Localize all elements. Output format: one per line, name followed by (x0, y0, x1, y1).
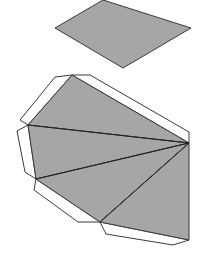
rhombus-base (55, 0, 191, 68)
net-diagram (0, 0, 207, 263)
